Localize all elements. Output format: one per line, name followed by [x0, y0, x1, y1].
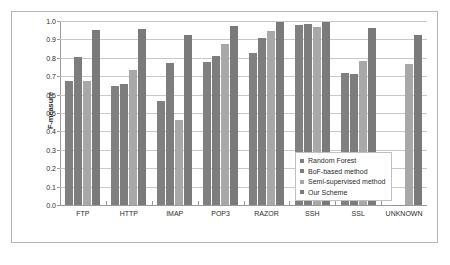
x-axis-tick-mark	[244, 201, 245, 205]
bar-group-razor	[244, 21, 290, 205]
bar	[258, 38, 266, 205]
x-axis-label-ftp: FTP	[60, 210, 106, 217]
bar	[175, 120, 183, 205]
x-axis-tick-mark	[198, 201, 199, 205]
legend-item[interactable]: Our Scheme	[300, 189, 385, 196]
bar	[203, 62, 211, 205]
chart-legend: Random ForestBoF-based methodSemi-superv…	[295, 152, 392, 201]
bar	[166, 63, 174, 205]
legend-item[interactable]: Random Forest	[300, 157, 385, 164]
y-axis-tick-label: 0.5	[46, 110, 56, 117]
bar	[120, 84, 128, 205]
bar	[221, 44, 229, 205]
legend-swatch-icon	[300, 190, 304, 194]
y-axis-tick-label: 0.1	[46, 183, 56, 190]
bar	[267, 31, 275, 205]
y-axis-tick-label: 0.3	[46, 146, 56, 153]
gridline: 0.0	[60, 205, 427, 206]
x-axis-label-http: HTTP	[106, 210, 152, 217]
bar	[212, 56, 220, 205]
legend-label: Random Forest	[308, 157, 356, 164]
bar-group-ftp	[60, 21, 106, 205]
bar	[92, 30, 100, 205]
legend-swatch-icon	[300, 180, 304, 184]
x-axis-label-ssl: SSL	[335, 210, 381, 217]
legend-swatch-icon	[300, 159, 304, 163]
legend-label: Our Scheme	[308, 189, 347, 196]
y-axis-tick-label: 0.6	[46, 91, 56, 98]
bar	[405, 64, 413, 205]
x-axis-label-ssh: SSH	[289, 210, 335, 217]
x-axis-tick-mark	[106, 201, 107, 205]
bar	[65, 81, 73, 205]
x-axis-label-imap: IMAP	[152, 210, 198, 217]
legend-label: Semi-supervised method	[308, 178, 385, 185]
bar	[129, 70, 137, 205]
bar	[249, 53, 257, 205]
x-axis-tick-mark	[335, 201, 336, 205]
legend-item[interactable]: BoF-based method	[300, 168, 385, 175]
bar	[184, 35, 192, 205]
x-axis-tick-mark	[381, 201, 382, 205]
bar	[230, 26, 238, 205]
bar	[138, 29, 146, 205]
y-axis-tick-mark	[57, 205, 60, 206]
bar	[276, 22, 284, 205]
y-axis-tick-label: 0.2	[46, 165, 56, 172]
bar	[414, 35, 422, 205]
x-axis-label-pop3: POP3	[198, 210, 244, 217]
bar	[83, 81, 91, 205]
y-axis-tick-label: 0.8	[46, 54, 56, 61]
x-axis-tick-mark	[289, 201, 290, 205]
y-axis-tick-label: 1.0	[46, 18, 56, 25]
y-axis-tick-label: 0.0	[46, 202, 56, 209]
legend-item[interactable]: Semi-supervised method	[300, 178, 385, 185]
bar	[157, 101, 165, 205]
x-axis-label-razor: RAZOR	[244, 210, 290, 217]
x-axis-label-unknown: UNKNOWN	[381, 210, 427, 217]
y-axis-tick-label: 0.9	[46, 36, 56, 43]
y-axis-tick-label: 0.4	[46, 128, 56, 135]
bar-group-http	[106, 21, 152, 205]
y-axis-tick-label: 0.7	[46, 73, 56, 80]
legend-swatch-icon	[300, 169, 304, 173]
bar	[111, 86, 119, 205]
bar	[74, 57, 82, 205]
x-axis-tick-mark	[152, 201, 153, 205]
bar-group-imap	[152, 21, 198, 205]
x-axis-labels: FTPHTTPIMAPPOP3RAZORSSHSSLUNKNOWN	[60, 210, 427, 217]
bar-group-pop3	[198, 21, 244, 205]
legend-label: BoF-based method	[308, 168, 368, 175]
chart-frame: F-measure 1.00.90.80.70.60.50.40.30.20.1…	[11, 11, 438, 243]
